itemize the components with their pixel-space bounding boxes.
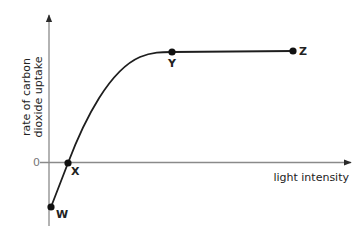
y-zero-tick-label: 0 bbox=[33, 156, 40, 169]
point-y-marker bbox=[168, 48, 175, 55]
point-z-marker bbox=[289, 47, 296, 54]
y-axis-label-line2: dioxide uptake bbox=[32, 56, 45, 137]
x-axis-label: light intensity bbox=[273, 171, 349, 184]
point-y-label: Y bbox=[167, 57, 177, 70]
point-z-label: Z bbox=[299, 45, 307, 58]
point-w-marker bbox=[47, 203, 54, 210]
point-x-label: X bbox=[71, 165, 80, 178]
light-intensity-graph: 0 rate of carbon dioxide uptake light in… bbox=[0, 0, 364, 232]
uptake-curve bbox=[51, 51, 293, 207]
point-w-label: W bbox=[56, 208, 68, 221]
